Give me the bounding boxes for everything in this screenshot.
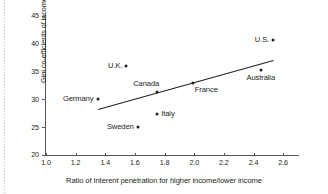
data-point-label: France: [195, 86, 218, 94]
x-tick-label: 1.0: [34, 159, 58, 166]
x-tick-mark: [165, 153, 166, 156]
scatter-chart: Gini co-efficients of income Ratio of In…: [0, 0, 328, 194]
x-tick-label: 1.6: [123, 159, 147, 166]
x-tick-mark: [224, 153, 225, 156]
data-point-marker: [136, 126, 139, 129]
x-tick-label: 1.8: [153, 159, 177, 166]
x-tick-mark: [283, 153, 284, 156]
data-point-label: Canada: [133, 80, 159, 88]
x-tick-label: 1.4: [93, 159, 117, 166]
x-tick-label: 2.2: [212, 159, 236, 166]
y-tick-label: 30: [25, 96, 39, 103]
y-tick-label: 45: [25, 12, 39, 19]
data-point-marker: [259, 69, 262, 72]
data-point-label: U.K.: [108, 62, 122, 70]
y-tick-mark: [42, 16, 45, 17]
x-tick-label: 2.4: [242, 159, 266, 166]
y-tick-mark: [42, 72, 45, 73]
y-tick-mark: [42, 99, 45, 100]
data-point-label: U.S.: [255, 36, 269, 44]
trend-line: [98, 60, 273, 110]
x-axis-line: [45, 155, 299, 156]
x-tick-mark: [194, 153, 195, 156]
y-tick-mark: [42, 127, 45, 128]
x-axis-title: Ratio of Interent penetration for higher…: [0, 176, 328, 185]
y-tick-label: 35: [25, 68, 39, 75]
y-tick-label: 25: [25, 124, 39, 131]
x-tick-mark: [254, 153, 255, 156]
data-point-label: Sweden: [107, 123, 134, 131]
data-point-marker: [271, 39, 274, 42]
data-point-marker: [125, 65, 128, 68]
data-point-label: Australia: [246, 74, 275, 82]
y-tick-label: 40: [25, 40, 39, 47]
data-point-label: Italy: [161, 110, 174, 118]
y-tick-mark: [42, 44, 45, 45]
data-point-marker: [156, 113, 159, 116]
x-tick-mark: [46, 153, 47, 156]
x-tick-label: 2.0: [182, 159, 206, 166]
y-tick-mark: [42, 155, 45, 156]
x-tick-mark: [135, 153, 136, 156]
page-margin-dotted-rule: [4, 0, 5, 194]
x-tick-label: 1.2: [64, 159, 88, 166]
data-point-label: Germany: [63, 95, 94, 103]
data-point-marker: [96, 98, 99, 101]
y-tick-label: 20: [25, 151, 39, 158]
x-tick-mark: [76, 153, 77, 156]
x-tick-mark: [105, 153, 106, 156]
x-tick-label: 2.6: [271, 159, 295, 166]
